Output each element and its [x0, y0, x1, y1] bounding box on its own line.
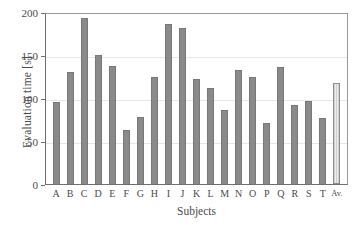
bar: [291, 105, 298, 184]
bar-slot: [120, 14, 134, 184]
x-axis-tick-label: E: [105, 188, 119, 204]
bar: [305, 101, 312, 184]
x-axis-tick-label: O: [246, 188, 260, 204]
y-axis-tick-label: 0: [0, 179, 38, 191]
x-axis-tick-label: J: [175, 188, 189, 204]
bar-slot: [245, 14, 259, 184]
bar: [123, 130, 130, 184]
x-axis-tick-label: T: [316, 188, 330, 204]
bar: [81, 18, 88, 184]
bar: [221, 110, 228, 184]
bar-slot: [217, 14, 231, 184]
bar: [109, 66, 116, 184]
bar: [151, 77, 158, 184]
x-axis-tick-label: R: [288, 188, 302, 204]
bar-slot: [301, 14, 315, 184]
bar: [67, 72, 74, 184]
bar-slot: [231, 14, 245, 184]
bar-slot: [273, 14, 287, 184]
x-axis-tick-label: F: [119, 188, 133, 204]
y-axis-tick-mark: [41, 185, 45, 186]
x-axis-tick-label: L: [204, 188, 218, 204]
plot-area: [45, 13, 348, 185]
bar: [179, 28, 186, 184]
bar-slot: [106, 14, 120, 184]
bar-slot: [259, 14, 273, 184]
bar: [277, 67, 284, 184]
y-axis-tick-label: 200: [0, 7, 38, 19]
bar: [319, 118, 326, 184]
bar-slot: [50, 14, 64, 184]
x-axis-tick-label: S: [302, 188, 316, 204]
bar-slot: [190, 14, 204, 184]
bar-chart-figure: Evaluation time [s] 050100150200 ABCDEFG…: [0, 0, 357, 232]
x-axis-tick-label: P: [260, 188, 274, 204]
bar: [235, 70, 242, 184]
bar-slot: [78, 14, 92, 184]
bar: [333, 83, 340, 184]
bar-slot: [64, 14, 78, 184]
bar-slot: [176, 14, 190, 184]
x-axis-tick-label: M: [218, 188, 232, 204]
bar: [137, 117, 144, 184]
x-axis-tick-label: K: [189, 188, 203, 204]
bar-slot: [203, 14, 217, 184]
x-axis-tick-label: G: [133, 188, 147, 204]
x-axis-tick-label: C: [77, 188, 91, 204]
bar-slot: [134, 14, 148, 184]
x-axis-tick-labels: ABCDEFGHIJKLMNOPQRSTAv.: [45, 188, 348, 204]
x-axis-tick-label: B: [63, 188, 77, 204]
x-axis-tick-label: H: [147, 188, 161, 204]
bar: [249, 77, 256, 184]
bar: [193, 79, 200, 184]
bar-slot: [162, 14, 176, 184]
bar: [53, 102, 60, 184]
y-axis-title: Evaluation time [s]: [21, 27, 33, 177]
bar-series: [46, 14, 347, 184]
bar: [165, 24, 172, 184]
x-axis-tick-label: Q: [274, 188, 288, 204]
bar-slot: [315, 14, 329, 184]
bar-slot: [287, 14, 301, 184]
x-axis-tick-label: N: [232, 188, 246, 204]
bar: [95, 55, 102, 184]
x-axis-tick-label: I: [161, 188, 175, 204]
bar: [263, 123, 270, 184]
x-axis-tick-label: Av.: [330, 188, 344, 204]
bar-slot: [92, 14, 106, 184]
x-axis-tick-label: A: [49, 188, 63, 204]
x-axis-tick-label: D: [91, 188, 105, 204]
bar: [207, 88, 214, 184]
x-axis-title: Subjects: [45, 205, 348, 217]
bar-slot: [329, 14, 343, 184]
bar-slot: [148, 14, 162, 184]
